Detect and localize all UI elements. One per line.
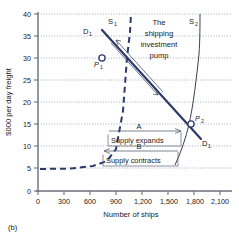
x-tick-label: 900	[110, 197, 122, 206]
y-tick-label: 5	[27, 164, 31, 173]
y-tick-label: 30	[23, 54, 31, 63]
supply-contracts-label: Supply contracts	[106, 156, 161, 165]
x-tick-label: 1,800	[186, 197, 204, 206]
chart-canvas: 40 35 30 25 20 15 10 5 0 0 300 600 900 1…	[0, 0, 239, 237]
label-a: A	[137, 122, 142, 131]
x-tick-label: 1,500	[160, 197, 178, 206]
pump-annotation: The shipping investment pump	[141, 18, 179, 60]
equilibrium-marker-p2	[188, 121, 194, 127]
x-tick-label: 1,200	[134, 197, 152, 206]
supply1-label: S	[108, 17, 113, 26]
equilibrium-marker-p1	[99, 55, 105, 61]
y-tick-labels: 40 35 30 25 20 15 10 5 0	[23, 10, 31, 196]
x-tick-label: 300	[58, 197, 70, 206]
shipping-investment-pump-figure: 40 35 30 25 20 15 10 5 0 0 300 600 900 1…	[0, 0, 239, 237]
x-tick-label: 2,100	[211, 197, 229, 206]
y-tick-label: 0	[27, 187, 31, 196]
y-tick-label: 25	[23, 76, 31, 85]
pump-annotation-line2: shipping	[145, 29, 173, 38]
y-axis-title: $000 per day freight	[4, 67, 13, 135]
demand-label-top-sub: 1	[89, 31, 92, 37]
panel-label: (b)	[8, 223, 18, 232]
supply-expands-label: Supply expands	[111, 136, 164, 145]
pump-annotation-line1: The	[152, 18, 165, 27]
pump-annotation-line3: investment	[141, 40, 179, 49]
y-tick-label: 20	[23, 98, 31, 107]
x-tick-labels: 0 300 600 900 1,200 1,500 1,800 2,100	[36, 197, 229, 206]
x-tick-label: 600	[84, 197, 96, 206]
x-tick-label: 0	[36, 197, 40, 206]
supply2-label: S	[189, 17, 194, 26]
price-label-p2-sub: 2	[201, 118, 204, 124]
price-label-p1-sub: 1	[100, 64, 103, 70]
y-tick-label: 35	[23, 32, 31, 41]
y-tick-label: 10	[23, 142, 31, 151]
price-label-p2: P	[195, 114, 200, 123]
y-tick-label: 15	[23, 120, 31, 129]
supply1-label-sub: 1	[114, 21, 117, 27]
price-label-p1: P	[94, 60, 99, 69]
demand-label-bottom-sub: 1	[208, 143, 211, 149]
supply-curve-s2	[175, 14, 200, 165]
pump-annotation-line4: pump	[150, 51, 169, 60]
supply2-label-sub: 2	[195, 21, 198, 27]
y-tick-label: 40	[23, 10, 31, 19]
x-axis-title: Number of ships	[103, 210, 158, 219]
